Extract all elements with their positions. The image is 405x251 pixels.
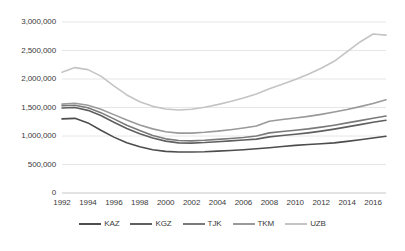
y-axis-tick-label: 1,500,000 xyxy=(0,103,56,112)
legend-item-tjk[interactable]: TJK xyxy=(183,219,222,228)
legend-label: TKM xyxy=(258,219,275,228)
legend-item-uzb[interactable]: UZB xyxy=(285,219,326,228)
legend-label: UZB xyxy=(310,219,326,228)
y-axis-tick-label: 3,000,000 xyxy=(0,17,56,26)
series-line-kaz xyxy=(62,118,386,152)
x-axis-tick-label: 2016 xyxy=(357,198,389,207)
line-chart: 3,000,0002,500,0002,000,0001,500,0001,00… xyxy=(0,0,405,251)
legend-item-kgz[interactable]: KGZ xyxy=(130,219,171,228)
y-axis-tick-label: 0 xyxy=(0,188,56,197)
legend-item-kaz[interactable]: KAZ xyxy=(79,219,119,228)
y-axis-tick-label: 500,000 xyxy=(0,160,56,169)
y-axis-tick-label: 2,000,000 xyxy=(0,74,56,83)
legend-item-tkm[interactable]: TKM xyxy=(233,219,275,228)
legend-swatch-kaz xyxy=(79,223,101,225)
legend-label: TJK xyxy=(208,219,222,228)
y-axis-tick-label: 1,000,000 xyxy=(0,131,56,140)
legend-swatch-tkm xyxy=(233,223,255,225)
chart-legend: KAZKGZTJKTKMUZB xyxy=(0,219,405,228)
legend-swatch-tjk xyxy=(183,223,205,225)
series-line-uzb xyxy=(62,34,386,110)
legend-swatch-uzb xyxy=(285,223,307,225)
legend-label: KAZ xyxy=(104,219,119,228)
chart-plot-area xyxy=(0,0,405,251)
y-axis-tick-label: 2,500,000 xyxy=(0,46,56,55)
legend-swatch-kgz xyxy=(130,223,152,225)
legend-label: KGZ xyxy=(155,219,171,228)
